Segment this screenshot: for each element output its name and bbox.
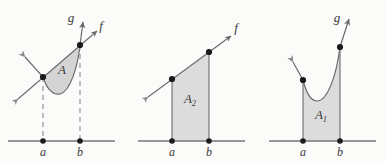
panel-3-region-subscript: 1 <box>323 114 327 124</box>
panel-1-axis-point-a <box>40 138 46 144</box>
panel-2-label-f: f <box>234 20 240 35</box>
panel-2-point-b <box>206 49 212 55</box>
panel-1-label-f: f <box>99 18 105 33</box>
panel-2-region-letter: A <box>183 91 192 106</box>
panel-3-curve-g <box>293 19 349 101</box>
panel-1-label-region: A <box>57 62 66 77</box>
panel-3-label-b: b <box>337 145 343 159</box>
panel-3-point-b <box>337 44 343 50</box>
panel-3-label-g: g <box>334 10 341 25</box>
panel-2-axis-point-a <box>169 138 175 144</box>
panel-2-label-b: b <box>206 145 212 159</box>
panel-1: g f A a b <box>8 10 115 159</box>
panel-3-region-letter: A <box>314 107 323 122</box>
panel-1-axis-point-b <box>77 138 83 144</box>
panel-2-region-subscript: 2 <box>192 98 197 108</box>
panel-3-point-a <box>300 77 306 83</box>
panel-1-point-b <box>77 42 83 48</box>
panel-2: f A2 a b <box>138 20 245 159</box>
area-between-curves-figure: g f A a b f A2 a b <box>0 0 385 164</box>
panel-3-axis-point-b <box>337 138 343 144</box>
panel-3: g A1 a b <box>269 10 376 159</box>
panel-2-axis-point-b <box>206 138 212 144</box>
panel-2-label-a: a <box>169 145 175 159</box>
panel-1-point-a <box>40 74 46 80</box>
panel-3-axis-point-a <box>300 138 306 144</box>
panel-2-point-a <box>169 76 175 82</box>
panel-1-label-a: a <box>40 145 46 159</box>
panel-1-label-g: g <box>68 10 75 25</box>
panel-3-label-a: a <box>300 145 306 159</box>
panel-1-label-b: b <box>77 145 83 159</box>
